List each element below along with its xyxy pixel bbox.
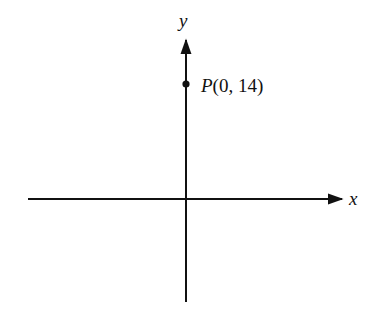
point-coords: (0, 14) <box>213 75 264 97</box>
point-name: P <box>200 75 213 96</box>
point-label: P(0, 14) <box>200 75 263 97</box>
y-axis-label: y <box>177 10 188 31</box>
point-p <box>182 80 189 87</box>
coordinate-plane: x y P(0, 14) <box>0 0 380 323</box>
x-axis-label: x <box>348 188 358 209</box>
